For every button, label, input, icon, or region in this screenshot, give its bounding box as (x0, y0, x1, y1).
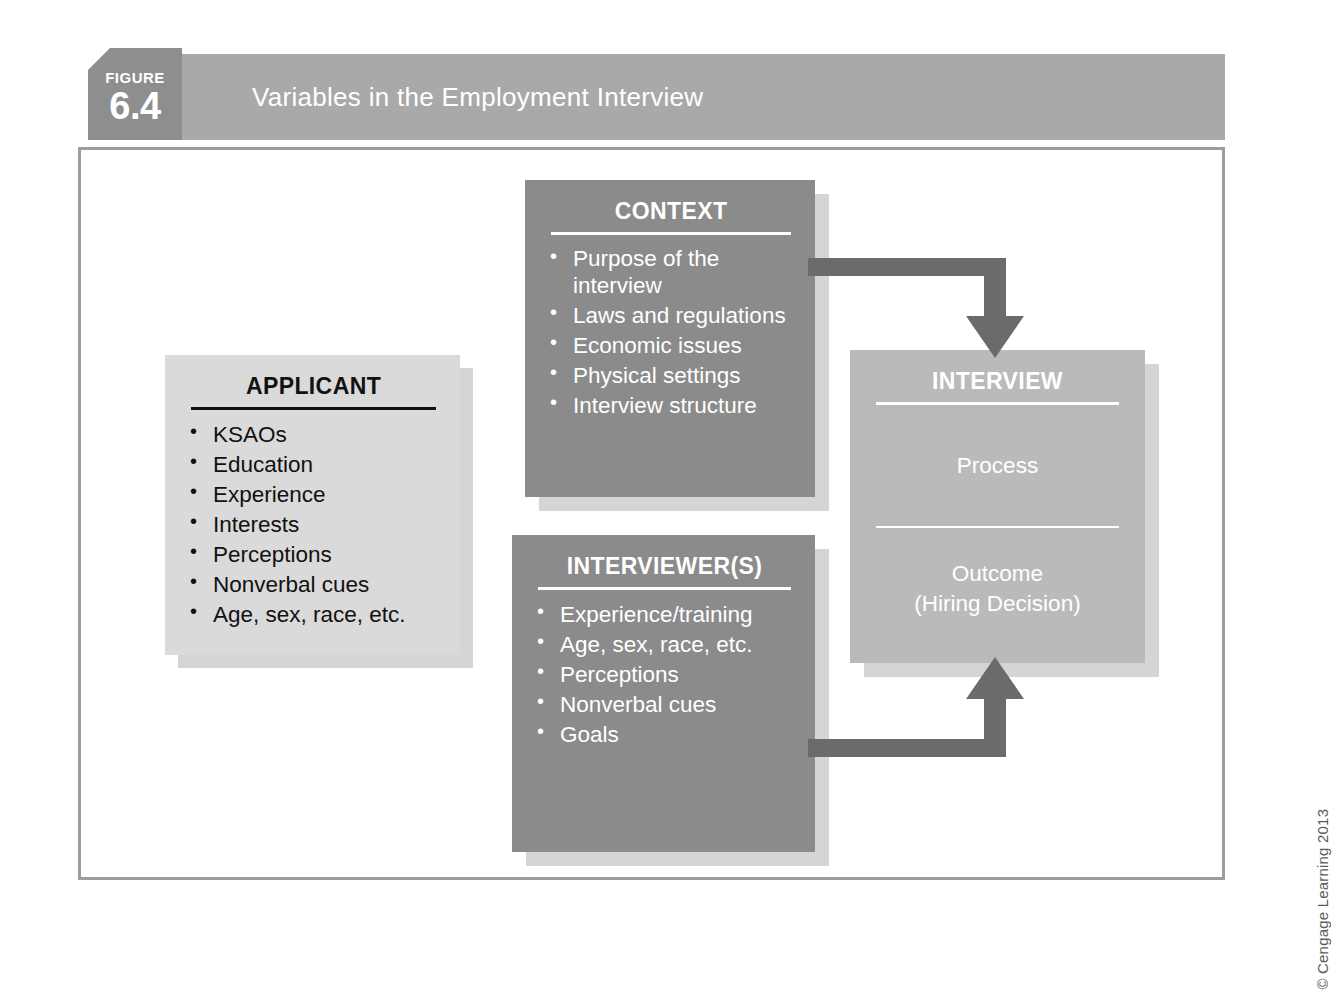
list-item: Age, sex, race, etc. (534, 630, 795, 659)
list-item: Economic issues (547, 331, 795, 360)
figure-tag-number: 6.4 (109, 87, 160, 125)
figure-tag-label: FIGURE (105, 70, 165, 85)
list-item: Age, sex, race, etc. (187, 600, 440, 629)
context-bullet-list: Purpose of the interview Laws and regula… (547, 245, 795, 420)
interview-box-title: INTERVIEW (872, 368, 1123, 395)
interview-outcome-cell: Outcome (Hiring Decision) (872, 528, 1123, 649)
copyright-notice: © Cengage Learning 2013 (1314, 809, 1331, 990)
list-item: Perceptions (534, 660, 795, 689)
arrow-interviewers-to-interview-icon (808, 655, 1018, 775)
applicant-bullet-list: KSAOs Education Experience Interests Per… (187, 420, 440, 629)
list-item: Interests (187, 510, 440, 539)
interviewers-box: INTERVIEWER(S) Experience/training Age, … (512, 535, 815, 852)
list-item: Interview structure (547, 391, 795, 420)
context-title-divider (551, 232, 791, 235)
interview-box: INTERVIEW Process Outcome (Hiring Decisi… (850, 350, 1145, 663)
page-title: Variables in the Employment Interview (252, 82, 703, 113)
context-box-title: CONTEXT (547, 198, 795, 225)
interviewers-bullet-list: Experience/training Age, sex, race, etc.… (534, 600, 795, 749)
interview-process-cell: Process (872, 405, 1123, 526)
list-item: Nonverbal cues (187, 570, 440, 599)
list-item: Goals (534, 720, 795, 749)
applicant-box-title: APPLICANT (187, 373, 440, 400)
context-box: CONTEXT Purpose of the interview Laws an… (525, 180, 815, 497)
list-item: Perceptions (187, 540, 440, 569)
applicant-box: APPLICANT KSAOs Education Experience Int… (165, 355, 460, 655)
interview-outcome-line1: Outcome (952, 561, 1043, 586)
list-item: Education (187, 450, 440, 479)
interview-process-label: Process (957, 451, 1038, 480)
arrow-context-to-interview-icon (808, 258, 1018, 368)
list-item: Physical settings (547, 361, 795, 390)
interview-outcome-line2: (Hiring Decision) (914, 591, 1080, 616)
list-item: Experience (187, 480, 440, 509)
list-item: Purpose of the interview (547, 245, 773, 300)
interview-outcome-text: Outcome (Hiring Decision) (914, 559, 1080, 618)
interviewers-box-title: INTERVIEWER(S) (534, 553, 795, 580)
list-item: KSAOs (187, 420, 440, 449)
applicant-title-divider (191, 407, 436, 410)
list-item: Experience/training (534, 600, 795, 629)
figure-header: Variables in the Employment Interview FI… (88, 48, 1225, 140)
list-item: Nonverbal cues (534, 690, 795, 719)
figure-number-tag: FIGURE 6.4 (88, 48, 182, 140)
figure-title-banner: Variables in the Employment Interview (182, 54, 1225, 140)
list-item: Laws and regulations (547, 301, 795, 330)
interviewers-title-divider (538, 587, 791, 590)
